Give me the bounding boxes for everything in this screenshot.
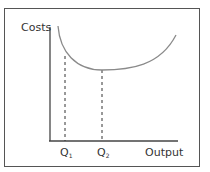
x-axis-label: Output (145, 147, 183, 158)
q1-label: Q1 (60, 147, 73, 159)
q2-sub: 2 (106, 152, 110, 159)
cost-curve (58, 26, 176, 70)
q1-sub: 1 (69, 152, 73, 159)
y-axis-label: Costs (21, 22, 51, 33)
q2-label: Q2 (97, 147, 110, 159)
q1-main: Q (60, 146, 69, 159)
q2-main: Q (97, 146, 106, 159)
